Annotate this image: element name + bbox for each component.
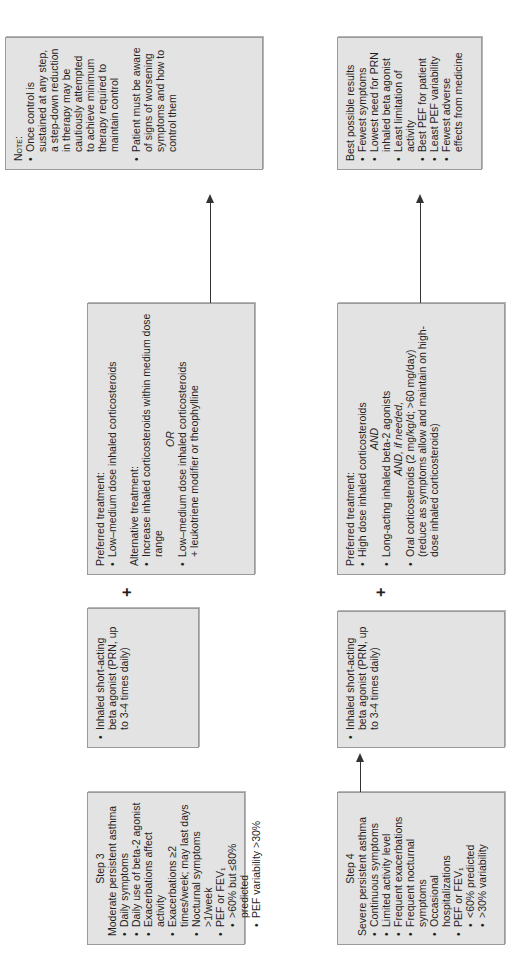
step4-subtitle: Severe persistent asthma xyxy=(356,801,368,936)
alternative-item-addon: + leukotriene modifier or theophylline xyxy=(188,312,200,566)
alternative-item: Increase inhaled corticosteroids within … xyxy=(140,312,164,566)
step4-item: Frequent exacerbations xyxy=(392,801,404,936)
preferred-treatment-label: Preferred treatment: xyxy=(344,312,356,566)
step3-subitem: PEF variability >30% xyxy=(250,801,262,936)
and-label: AND xyxy=(368,312,380,566)
plus-connector-step4: + xyxy=(372,588,390,597)
note-item: Once control is sustained at any step, a… xyxy=(24,46,120,161)
step4-box: Step 4 Severe persistent asthma Continuo… xyxy=(337,792,505,945)
step3-item: Nocturnal symptoms >1/week xyxy=(190,801,214,936)
step4-reliever-box: Inhaled short-acting beta agonist (PRN, … xyxy=(337,611,505,748)
preferred-item: Oral corticosteroids (2 mg/kg/d; >60 mg/… xyxy=(404,312,440,566)
preferred-treatment-label: Preferred treatment: xyxy=(94,312,106,566)
or-label: OR xyxy=(164,312,176,566)
alternative-treatment-label: Alternative treatment: xyxy=(128,312,140,566)
arrow-line-step4-reliever xyxy=(360,762,361,792)
preferred-item: High dose inhaled corticosteroids xyxy=(356,312,368,566)
rotated-diagram-canvas: Step 3 Moderate persistent asthma Daily … xyxy=(0,0,529,955)
step3-item: Exacerbations ≥2 times/week; may last da… xyxy=(166,801,190,936)
and-if-needed-label: AND, if needed, xyxy=(392,312,404,566)
step4-title: Step 4 xyxy=(344,801,356,936)
arrow-head-results xyxy=(416,194,424,203)
step4-item: Limited activity level xyxy=(380,801,392,936)
preferred-item: Long-acting inhaled beta-2 agonists xyxy=(380,312,392,566)
note-item: Patient must be aware of signs of worsen… xyxy=(130,46,178,161)
step4-item: Occasional hospitalizations xyxy=(428,801,452,936)
step4-reliever-text: Inhaled short-acting beta agonist (PRN, … xyxy=(344,620,380,739)
results-title: Best possible results xyxy=(344,46,356,161)
plus-connector-step3: + xyxy=(118,588,136,597)
step3-reliever-text: Inhaled short-acting beta agonist (PRN, … xyxy=(94,617,130,739)
arrow-line-step3 xyxy=(210,203,211,303)
results-item: Fewest symptoms xyxy=(356,46,368,161)
note-box: Note: Once control is sustained at any s… xyxy=(5,37,263,170)
alternative-item: Low–medium dose inhaled corticosteroids xyxy=(176,312,188,566)
arrow-line-results xyxy=(420,203,421,303)
step3-item: Exacerbations affect activity xyxy=(142,801,166,936)
results-item: Lowest need for PRN inhaled beta agonist xyxy=(368,46,392,161)
preferred-item: Low–medium dose inhaled corticosteroids xyxy=(106,312,118,566)
step3-item: PEF or FEV₁ xyxy=(214,801,226,936)
results-item: Least limitation of activity xyxy=(392,46,416,161)
step4-item: Continuous symptoms xyxy=(368,801,380,936)
step4-subitem: >30% variability xyxy=(476,801,488,936)
arrow-head-step4-reliever xyxy=(356,753,364,762)
step4-subitem: <60% predicted xyxy=(464,801,476,936)
step3-item: Daily symptoms xyxy=(118,801,130,936)
note-label: Note: xyxy=(12,136,24,161)
step3-subtitle: Moderate persistent asthma xyxy=(106,801,118,936)
step3-reliever-box: Inhaled short-acting beta agonist (PRN, … xyxy=(87,608,199,748)
step3-subitem: >60% but ≤80% predicted xyxy=(226,801,250,936)
arrow-head-step3 xyxy=(206,194,214,203)
step3-treatment-box: Preferred treatment: Low–medium dose inh… xyxy=(87,303,255,575)
step4-item: PEF or FEV₁ xyxy=(452,801,464,936)
step3-item: Daily use of beta-2 agonist xyxy=(130,801,142,936)
results-box: Best possible results Fewest symptoms Lo… xyxy=(337,37,482,170)
results-item: Least PEF variability xyxy=(428,46,440,161)
results-item: Best PEF for patient xyxy=(416,46,428,161)
step4-item: Frequent nocturnal symptoms xyxy=(404,801,428,936)
step3-box: Step 3 Moderate persistent asthma Daily … xyxy=(87,792,245,945)
step3-title: Step 3 xyxy=(94,801,106,936)
results-item: Fewest adverse effects from medicine xyxy=(440,46,464,161)
step4-treatment-box: Preferred treatment: High dose inhaled c… xyxy=(337,303,505,575)
